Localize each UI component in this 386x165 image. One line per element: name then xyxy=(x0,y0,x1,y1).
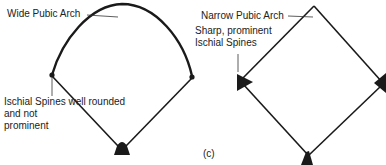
wide-pelvis-shape xyxy=(49,4,194,155)
narrow-pubic-arch-label: Narrow Pubic Arch xyxy=(201,10,284,21)
sharp-spines-label-line2: Ischial Spines xyxy=(195,37,257,48)
rounded-spine-right xyxy=(189,74,194,79)
rounded-spines-label-line1: Ischial Spines well rounded xyxy=(4,96,125,107)
rounded-spines-label-line3: prominent xyxy=(4,120,48,131)
sharp-spines-label-line1: Sharp, prominent xyxy=(195,25,272,36)
panel-label: (c) xyxy=(203,148,215,159)
wide-pubic-arch-label: Wide Pubic Arch xyxy=(7,8,80,19)
rounded-spines-label-line2: and not xyxy=(4,108,37,119)
rounded-spine-left xyxy=(49,72,54,77)
pelvis-diagram xyxy=(0,0,386,165)
